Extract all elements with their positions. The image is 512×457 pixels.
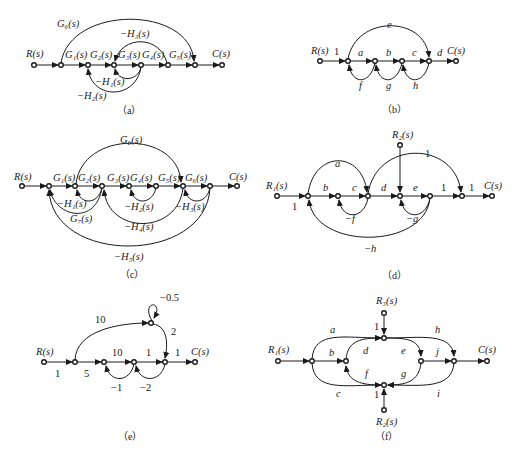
label-r1: R₁(s) [265, 180, 288, 192]
label-output: C(s) [212, 48, 231, 60]
node [132, 360, 137, 365]
label-one: 1 [334, 46, 339, 57]
edge-f [346, 366, 381, 385]
label-h: h [435, 324, 440, 335]
diagram-c: R(s) C(s) G₁(s) G₂(s) G₃(s) G₄(s) G₅(s) … [13, 134, 248, 280]
node [102, 360, 107, 365]
diagram-f: R₁(s) R₃(s) R₂(s) C(s) 1 1 a b c d e f g… [267, 295, 497, 442]
label-one-input: 1 [292, 201, 297, 212]
label-h4: −H₄(s) [124, 221, 154, 233]
node [73, 360, 78, 365]
label-b: b [386, 47, 391, 58]
label-f: f [365, 368, 370, 379]
label-g2: G₂(s) [90, 49, 113, 61]
edge-g [376, 63, 402, 80]
label-one-mid: 1 [441, 182, 446, 193]
node-input-r1 [276, 359, 281, 364]
node [166, 63, 171, 68]
label-one-top: 1 [374, 321, 379, 332]
label-g: g [401, 368, 406, 379]
label-c: c [412, 47, 417, 58]
caption-c: （c） [120, 269, 144, 280]
label-g7: G₇(s) [70, 213, 93, 225]
node-r2 [398, 143, 403, 148]
node [346, 59, 351, 64]
label-one-mid: 1 [146, 347, 151, 358]
label-d: d [381, 182, 387, 193]
edge-m2 [136, 364, 165, 379]
node [310, 359, 315, 364]
label-input: R(s) [25, 48, 44, 60]
caption-e: （e） [118, 431, 142, 442]
node-input [32, 63, 37, 68]
label-d: d [363, 345, 369, 356]
edge-h [403, 63, 429, 80]
label-g8: G₈(s) [120, 134, 143, 146]
edge-m1 [106, 364, 134, 379]
label-c: c [352, 182, 357, 193]
label-h1: −H₁(s) [57, 198, 87, 210]
label-h3: −H₃(s) [120, 28, 150, 40]
node-top [149, 321, 154, 326]
label-r1: R₁(s) [267, 344, 290, 356]
node-input [20, 184, 25, 189]
signal-flow-graphs: R(s) C(s) G₁(s) G₂(s) G₃(s) G₄(s) G₅(s) … [0, 0, 512, 457]
node [59, 63, 64, 68]
label-one-out: 1 [175, 347, 180, 358]
node [336, 194, 341, 199]
label-a: a [358, 47, 363, 58]
label-j: j [434, 346, 439, 357]
diagram-b: R(s) 1 a b c d C(s) e f g h （b） [310, 19, 466, 115]
node-input-r2 [382, 408, 387, 413]
node-output [485, 359, 490, 364]
node [452, 359, 457, 364]
node [400, 59, 405, 64]
node [366, 194, 371, 199]
label-m1: −1 [111, 382, 122, 393]
node [382, 383, 387, 388]
label-e: e [401, 345, 406, 356]
label-one-top: 1 [425, 148, 430, 159]
node-input [275, 194, 280, 199]
node [398, 194, 403, 199]
diagram-e: R(s) C(s) 1 5 10 −0.5 2 10 1 1 −1 −2 （e） [35, 292, 210, 442]
node [306, 194, 311, 199]
label-h3: −H₃(s) [175, 201, 205, 213]
label-b: b [323, 182, 328, 193]
label-five: 5 [84, 368, 89, 379]
node-output [490, 194, 495, 199]
edge-f [349, 63, 375, 80]
node [154, 184, 159, 189]
label-h1: −H₁(s) [95, 76, 125, 88]
label-a: a [330, 324, 335, 335]
label-ten: 10 [112, 347, 123, 358]
node [163, 360, 168, 365]
node [181, 184, 186, 189]
node [382, 336, 387, 341]
label-two: 2 [171, 326, 176, 337]
label-d: d [437, 47, 443, 58]
edge-i [388, 363, 454, 385]
label-g1: G₁(s) [65, 49, 88, 61]
label-m2: −2 [140, 382, 151, 393]
node [112, 63, 117, 68]
label-input: R(s) [35, 346, 54, 358]
diagram-d: R₁(s) R₂(s) C(s) 1 a b c d e 1 1 1 −f −g… [265, 129, 503, 281]
node-output [220, 63, 225, 68]
node-input [318, 59, 323, 64]
label-h: h [413, 80, 418, 91]
label-ten-top: 10 [95, 314, 106, 325]
label-one-input: 1 [55, 368, 60, 379]
label-g4: G₄(s) [142, 49, 165, 61]
caption-a: （a） [117, 105, 141, 116]
label-output: C(s) [484, 180, 503, 192]
node [373, 59, 378, 64]
node-output [235, 184, 240, 189]
caption-f: （f） [375, 431, 398, 442]
label-input: R(s) [13, 171, 32, 183]
node [47, 184, 52, 189]
label-g: −g [406, 213, 418, 224]
label-i: i [437, 388, 440, 399]
node [460, 194, 465, 199]
label-a: a [335, 158, 340, 169]
